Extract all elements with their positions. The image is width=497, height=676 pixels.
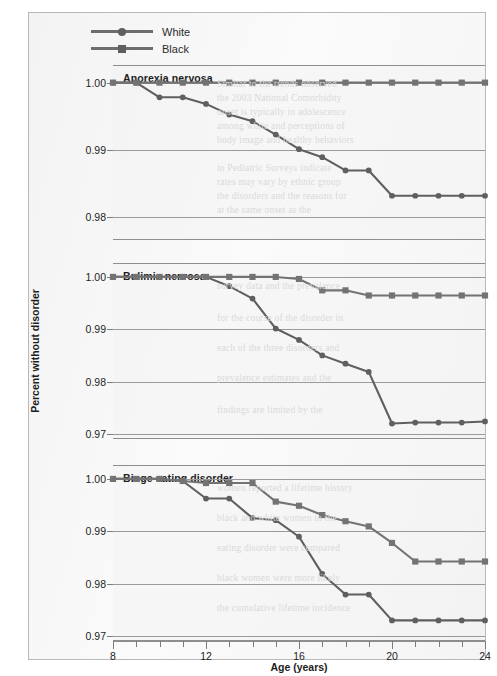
data-point-white bbox=[459, 618, 465, 624]
data-point-black bbox=[110, 476, 116, 482]
y-axis-tick-label: 0.98 bbox=[86, 376, 106, 388]
series-layer bbox=[113, 66, 485, 239]
data-point-black bbox=[412, 292, 418, 298]
plot-area: 1.000.990.980.97 bbox=[113, 466, 485, 640]
data-point-black bbox=[226, 80, 232, 86]
data-point-black bbox=[482, 558, 488, 564]
series-line-white bbox=[113, 83, 485, 196]
x-axis-major-tick bbox=[113, 641, 114, 649]
x-axis-minor-tick bbox=[322, 641, 323, 647]
data-point-black bbox=[156, 476, 162, 482]
legend-item-white: White bbox=[91, 23, 190, 40]
data-point-black bbox=[110, 274, 116, 280]
data-point-black bbox=[296, 276, 302, 282]
data-point-white bbox=[180, 94, 186, 100]
x-axis-minor-tick bbox=[229, 641, 230, 647]
x-axis-major-tick bbox=[392, 641, 393, 649]
data-point-black bbox=[342, 287, 348, 293]
data-point-white bbox=[459, 193, 465, 199]
data-point-white bbox=[226, 496, 232, 502]
data-point-black bbox=[459, 292, 465, 298]
data-point-white bbox=[482, 618, 488, 624]
data-point-black bbox=[133, 274, 139, 280]
data-point-white bbox=[412, 420, 418, 426]
y-axis-tick-label: 1.00 bbox=[86, 77, 106, 89]
chart-legend: White Black bbox=[91, 23, 190, 57]
data-point-white bbox=[343, 361, 349, 367]
x-axis-minor-tick bbox=[415, 641, 416, 647]
data-point-black bbox=[296, 503, 302, 509]
data-point-white bbox=[273, 517, 279, 523]
data-point-black bbox=[273, 499, 279, 505]
x-axis-minor-tick bbox=[346, 641, 347, 647]
x-axis-minor-tick bbox=[462, 641, 463, 647]
chart-panel-binge-eating: Binge eating disorder 1.000.990.980.97 bbox=[113, 465, 485, 641]
series-line-black bbox=[113, 479, 485, 562]
data-point-black bbox=[273, 274, 279, 280]
data-point-white bbox=[389, 193, 395, 199]
data-point-white bbox=[157, 94, 163, 100]
data-point-black bbox=[389, 292, 395, 298]
data-point-black bbox=[319, 80, 325, 86]
data-point-white bbox=[203, 101, 209, 107]
data-point-black bbox=[203, 80, 209, 86]
data-point-white bbox=[389, 618, 395, 624]
data-point-black bbox=[226, 480, 232, 486]
x-axis-minor-tick bbox=[136, 641, 137, 647]
data-point-white bbox=[482, 419, 488, 425]
data-point-black bbox=[459, 558, 465, 564]
data-point-white bbox=[273, 326, 279, 332]
y-axis-tick-label: 1.00 bbox=[86, 271, 106, 283]
data-point-white bbox=[412, 193, 418, 199]
y-axis-tick-label: 0.99 bbox=[86, 525, 106, 537]
y-axis-tick-label: 0.98 bbox=[86, 578, 106, 590]
data-point-black bbox=[459, 80, 465, 86]
data-point-black bbox=[482, 80, 488, 86]
y-axis-tick-label: 1.00 bbox=[86, 473, 106, 485]
data-point-black bbox=[435, 558, 441, 564]
data-point-white bbox=[250, 118, 256, 124]
data-point-black bbox=[319, 512, 325, 518]
legend-label-black: Black bbox=[162, 43, 189, 55]
data-point-white bbox=[389, 421, 395, 427]
y-axis-tick-label: 0.99 bbox=[86, 323, 106, 335]
y-axis-tick-label: 0.99 bbox=[86, 144, 106, 156]
data-point-white bbox=[482, 193, 488, 199]
data-point-black bbox=[366, 292, 372, 298]
y-axis-title: Percent without disorder bbox=[29, 289, 41, 413]
data-point-white bbox=[319, 353, 325, 359]
data-point-black bbox=[366, 523, 372, 529]
data-point-black bbox=[249, 274, 255, 280]
data-point-black bbox=[180, 274, 186, 280]
data-point-white bbox=[459, 420, 465, 426]
data-point-white bbox=[319, 154, 325, 160]
data-point-white bbox=[436, 618, 442, 624]
data-point-black bbox=[319, 287, 325, 293]
data-point-black bbox=[249, 80, 255, 86]
data-point-black bbox=[342, 80, 348, 86]
data-point-white bbox=[366, 592, 372, 598]
data-point-black bbox=[133, 80, 139, 86]
data-point-black bbox=[366, 80, 372, 86]
data-point-black bbox=[342, 518, 348, 524]
data-point-black bbox=[180, 478, 186, 484]
x-axis-major-tick bbox=[299, 641, 300, 649]
data-point-white bbox=[296, 146, 302, 152]
data-point-black bbox=[133, 476, 139, 482]
data-point-black bbox=[156, 274, 162, 280]
series-line-white bbox=[113, 277, 485, 424]
data-point-white bbox=[250, 296, 256, 302]
plot-area: 1.000.990.980.97 bbox=[113, 264, 485, 438]
data-point-white bbox=[226, 112, 232, 118]
series-line-white bbox=[113, 479, 485, 620]
data-point-black bbox=[226, 274, 232, 280]
data-point-black bbox=[203, 480, 209, 486]
data-point-white bbox=[412, 618, 418, 624]
y-axis-tick-label: 0.97 bbox=[86, 428, 106, 440]
x-axis-title: Age (years) bbox=[113, 661, 485, 673]
data-point-black bbox=[435, 80, 441, 86]
x-axis-major-tick bbox=[485, 641, 486, 649]
series-layer bbox=[113, 264, 485, 438]
x-axis-minor-tick bbox=[183, 641, 184, 647]
data-point-white bbox=[273, 132, 279, 138]
